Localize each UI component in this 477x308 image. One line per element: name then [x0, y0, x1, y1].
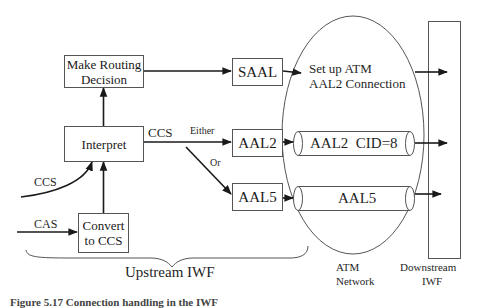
cas-in-label: CAS: [34, 218, 57, 230]
ccs-out-label: CCS: [148, 126, 173, 139]
saal-block: SAAL: [232, 58, 283, 86]
setup-line2: AAL2 Connection: [309, 77, 405, 90]
atm-line2: Network: [336, 276, 375, 287]
routing-line1: Make Routing: [67, 57, 142, 72]
downstream-iwf-block: [429, 22, 461, 259]
downstream-line1: Downstream: [400, 262, 456, 273]
ccs-in-label: CCS: [34, 176, 57, 188]
either-label: Either: [190, 126, 214, 136]
arrow-or-to-aal5: [186, 147, 231, 194]
or-label: Or: [210, 158, 221, 168]
saal-label: SAAL: [238, 65, 277, 80]
convert-to-ccs-block: Convert to CCS: [78, 213, 129, 253]
interpret-block: Interpret: [64, 126, 144, 162]
aal2-label: AAL2: [238, 136, 276, 151]
aal5-label: AAL5: [238, 190, 276, 205]
aal2-block: AAL2: [232, 129, 283, 157]
upstream-iwf-label: Upstream IWF: [125, 265, 215, 280]
downstream-line2: IWF: [422, 276, 442, 287]
aal5-pipe-label: AAL5: [338, 191, 376, 206]
interpret-label: Interpret: [82, 137, 127, 152]
routing-line2: Decision: [67, 72, 142, 87]
convert-line1: Convert: [83, 218, 125, 233]
convert-line2: to CCS: [83, 233, 125, 248]
make-routing-decision-block: Make Routing Decision: [64, 55, 144, 88]
aal5-block: AAL5: [232, 183, 283, 211]
atm-line1: ATM: [336, 262, 359, 273]
setup-line1: Set up ATM: [309, 62, 372, 75]
arrow-saal-to-atm: [283, 71, 301, 73]
aal2-pipe-label: AAL2 CID=8: [310, 136, 398, 151]
figure-caption: Figure 5.17 Connection handling in the I…: [10, 296, 218, 308]
